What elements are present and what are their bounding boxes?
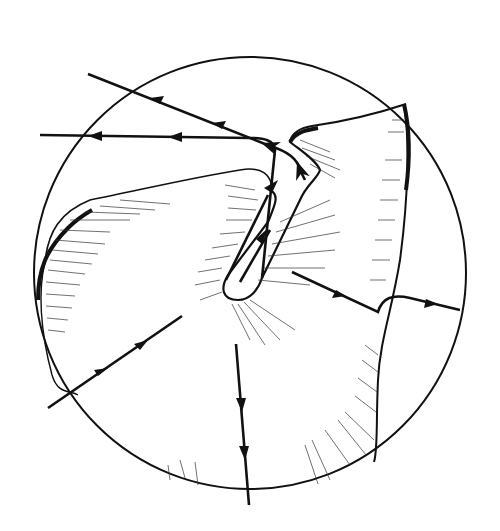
right-lobe-thick bbox=[404, 104, 409, 190]
arrowhead-icon bbox=[88, 131, 102, 141]
left-lobe-outline bbox=[45, 169, 272, 262]
hatching-right bbox=[370, 120, 404, 280]
streamlines bbox=[40, 74, 460, 505]
arrow-right-out bbox=[292, 272, 460, 312]
field-circle bbox=[34, 57, 466, 489]
groove-outline bbox=[223, 104, 406, 300]
hatching-groove bbox=[195, 140, 340, 345]
diagram-figure bbox=[0, 0, 500, 531]
arrow-upper-left-2 bbox=[40, 135, 275, 278]
hatching-bottom bbox=[168, 345, 378, 485]
left-lobe-thick-edge bbox=[38, 210, 92, 300]
right-lobe-edge bbox=[374, 104, 407, 462]
hatching-left bbox=[46, 200, 170, 332]
right-lobe-top bbox=[290, 128, 318, 142]
arrowhead-icon bbox=[424, 299, 438, 308]
diagram-canvas bbox=[0, 0, 500, 531]
arrow-lower-left bbox=[48, 316, 182, 408]
arrowhead-icon bbox=[168, 132, 182, 142]
arrow-bottom bbox=[236, 344, 249, 505]
